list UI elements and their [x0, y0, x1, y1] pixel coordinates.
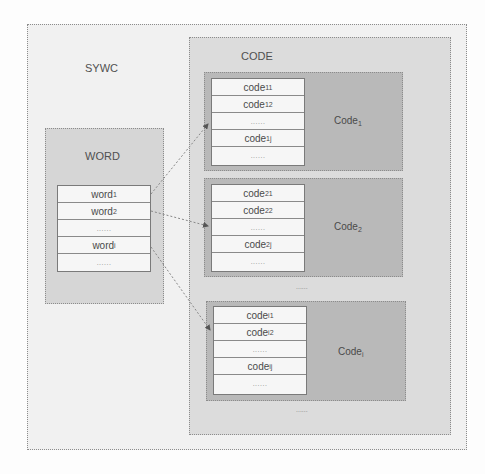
code-region-label: CODE — [241, 50, 273, 62]
code-table-2: code21 code22 ...... code2j ...... — [211, 184, 305, 272]
code-row: code12 — [212, 96, 304, 113]
code-group-1-label: Code1 — [334, 115, 362, 127]
code-row: codei1 — [214, 307, 306, 324]
code-row-ellipsis: ...... — [214, 375, 306, 392]
code-row-ellipsis: ...... — [212, 147, 304, 164]
code-group-i-label: Codei — [338, 346, 363, 358]
code-row: code21 — [212, 185, 304, 202]
code-group-2-label: Code2 — [334, 221, 362, 233]
code-table-i: codei1 codei2 ...... codeij ...... — [213, 306, 307, 395]
code-row-ellipsis: ...... — [212, 113, 304, 130]
word-row: wordi — [58, 237, 150, 254]
code-row-ellipsis: ...... — [214, 341, 306, 358]
word-row: word1 — [58, 186, 150, 203]
code-row: code22 — [212, 202, 304, 219]
code-row: codeij — [214, 358, 306, 375]
word-table: word1 word2 ...... wordi ...... — [57, 185, 151, 272]
code-table-1: code11 code12 ...... code1j ...... — [211, 78, 305, 166]
word-row-ellipsis: ...... — [58, 220, 150, 237]
word-row: word2 — [58, 203, 150, 220]
sywc-label: SYWC — [85, 62, 118, 74]
code-row-ellipsis: ...... — [212, 253, 304, 270]
code-row: code2j — [212, 236, 304, 253]
code-row: code11 — [212, 79, 304, 96]
code-region-bottom-ellipsis: ...... — [296, 406, 308, 413]
code-row-ellipsis: ...... — [212, 219, 304, 236]
groups-ellipsis: ...... — [296, 283, 308, 290]
code-row: codei2 — [214, 324, 306, 341]
code-row: code1j — [212, 130, 304, 147]
word-row-ellipsis: ...... — [58, 254, 150, 271]
word-region-label: WORD — [85, 150, 120, 162]
